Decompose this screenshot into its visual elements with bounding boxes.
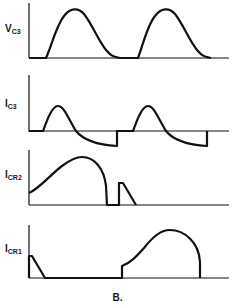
label-icr1: ICR1 [5, 244, 22, 255]
panel-vc3 [29, 3, 229, 58]
label-icr2-subscript: CR2 [8, 174, 22, 181]
panel-icr2 [29, 150, 229, 205]
label-vc3-symbol: V [5, 23, 12, 34]
label-vc3: VC3 [5, 24, 21, 35]
figure-caption: B. [0, 292, 235, 303]
label-icr1-subscript: CR1 [8, 248, 22, 255]
icr2-waveform [29, 157, 136, 205]
panel-icr1 [29, 225, 229, 278]
waveform-diagram: VC3 IC3 ICR2 ICR1 [0, 0, 235, 307]
icr1-waveform [29, 230, 200, 278]
waveform-plot-svg [0, 0, 235, 307]
label-ic3-subscript: C3 [8, 103, 17, 110]
vc3-waveform [29, 9, 211, 58]
label-ic3: IC3 [5, 99, 17, 110]
panel-ic3 [29, 75, 229, 146]
label-icr2: ICR2 [5, 170, 22, 181]
ic3-waveform [29, 106, 207, 146]
label-vc3-subscript: C3 [12, 28, 21, 35]
